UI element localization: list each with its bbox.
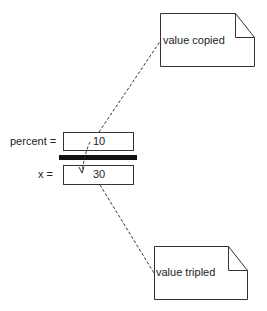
connector-tripled (100, 185, 154, 273)
diagram-canvas (0, 0, 267, 311)
percent-label: percent = (10, 135, 56, 148)
connector-copied (99, 40, 161, 132)
x-label: x = (38, 168, 53, 181)
separator-bar (59, 155, 137, 160)
percent-value: 10 (93, 135, 105, 148)
note-value-copied-text: value copied (163, 34, 225, 47)
note-value-tripled-text: value tripled (156, 266, 215, 279)
x-value: 30 (93, 168, 105, 181)
